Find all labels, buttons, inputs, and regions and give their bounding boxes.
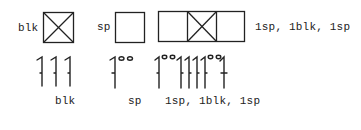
block-stitches-label: blk (55, 95, 75, 107)
filet-diagram (0, 0, 361, 130)
space-stitches-icon (110, 57, 133, 88)
block-label: blk (18, 22, 38, 34)
space-block-space-label: 1sp, 1blk, 1sp (255, 21, 350, 33)
space-block-space-cells-icon (159, 12, 245, 42)
space-block-space-stitches-label: 1sp, 1blk, 1sp (165, 95, 260, 107)
block-stitches-icon (37, 57, 70, 86)
space-stitches-label: sp (128, 95, 142, 107)
space-cell-icon (116, 13, 145, 43)
space-block-space-stitches-icon (155, 55, 227, 88)
block-cell-icon (44, 13, 74, 43)
space-label: sp (97, 21, 111, 33)
